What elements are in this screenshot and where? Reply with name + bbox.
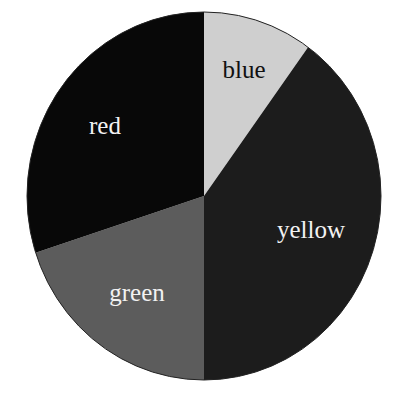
slice-label-blue: blue xyxy=(222,56,265,83)
pie-slices xyxy=(27,12,381,380)
slice-label-green: green xyxy=(109,279,165,306)
pie-chart: blueyellowgreenred xyxy=(0,0,401,394)
slice-label-red: red xyxy=(89,112,121,139)
slice-label-yellow: yellow xyxy=(277,216,345,243)
